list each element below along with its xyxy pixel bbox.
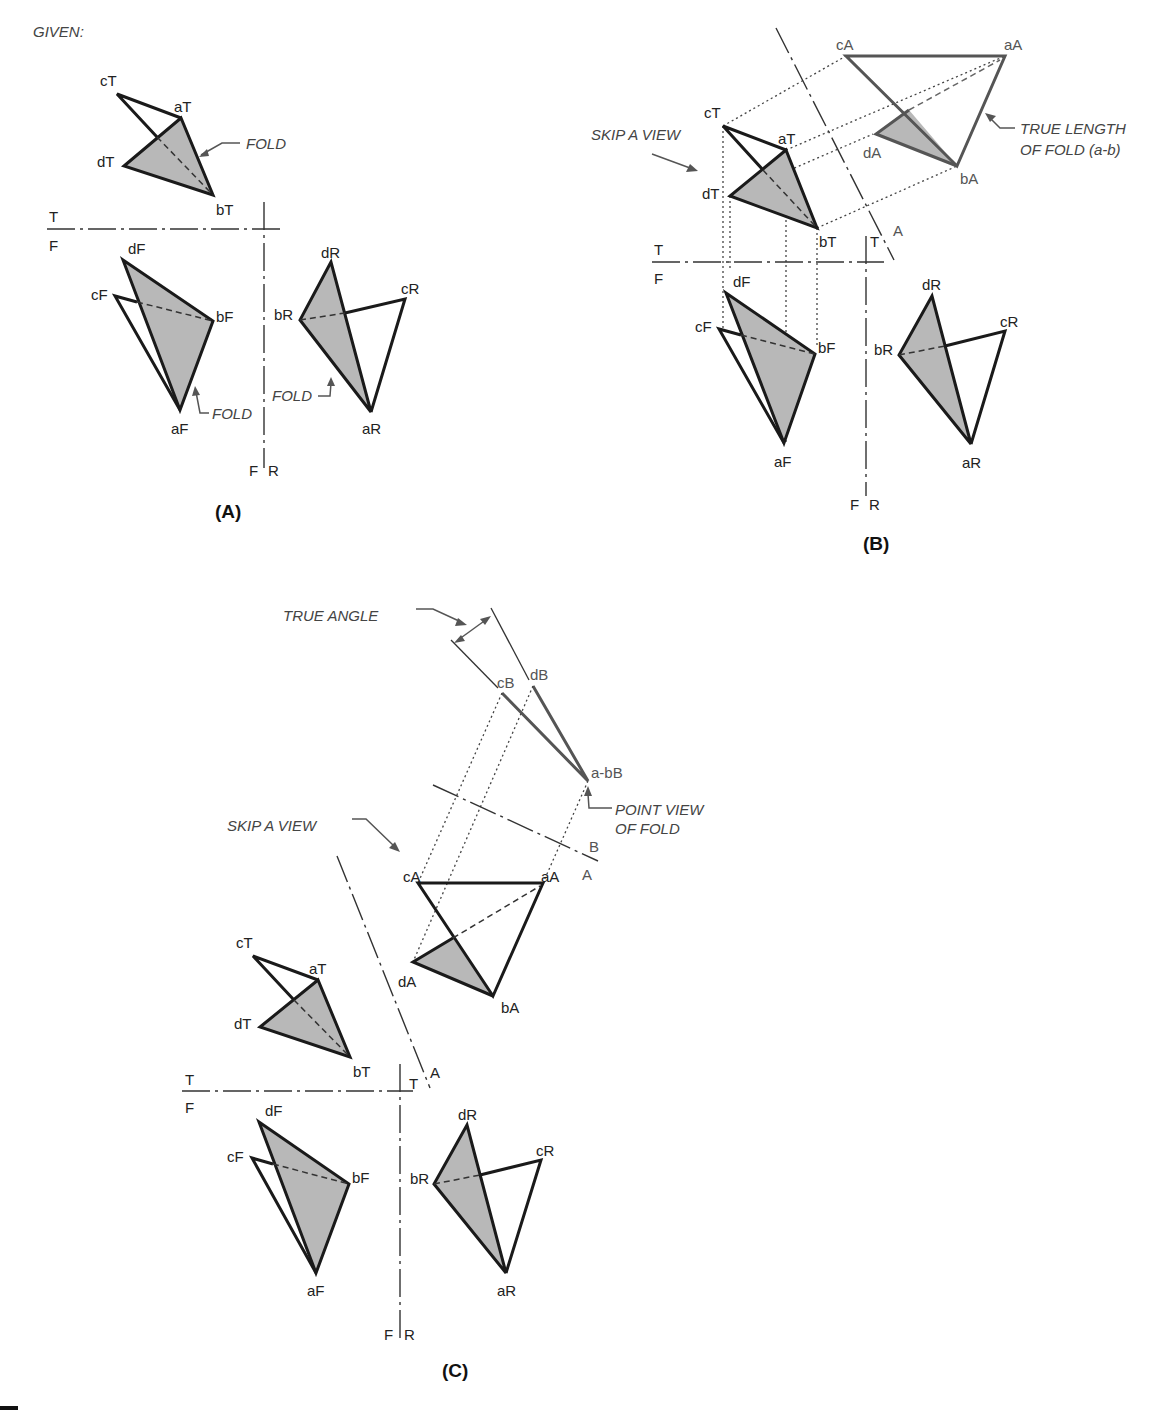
page-mark (0, 1406, 18, 1410)
fold-label-F: F (49, 237, 58, 254)
front-view-b: dF cF bF aF (695, 273, 836, 470)
aux-view-a-b: cA aA dA bA TRUE LENGTH OF FOLD (a-b) (836, 36, 1126, 187)
label-dT-b: dT (702, 185, 720, 202)
label-bF: bF (216, 308, 234, 325)
label-dA-c: dA (398, 973, 416, 990)
panel-b: A T cT aT dT bT SKIP A VIEW cA aA dA bA (591, 28, 1126, 554)
label-bF-b: bF (818, 339, 836, 356)
label-cF-b: cF (695, 318, 712, 335)
label-cF-c: cF (227, 1148, 244, 1165)
fold-label-T-b: T (654, 241, 663, 258)
fold-label-A-c: A (582, 866, 592, 883)
fold-label-T: T (49, 208, 58, 225)
label-bR-b: bR (874, 341, 893, 358)
fold-note-front: FOLD (212, 405, 252, 422)
fold-label-F2: F (249, 462, 258, 479)
label-dF: dF (128, 240, 146, 257)
projection-lines-c (413, 686, 588, 962)
fold-label-F2-c: F (384, 1326, 393, 1343)
point-view-leader (588, 794, 612, 808)
label-bT: bT (216, 201, 234, 218)
front-view-a: dF cF bF aF FOLD (91, 240, 252, 437)
top-view-b: cT aT dT bT (702, 104, 837, 250)
arrow-icon (192, 386, 200, 396)
dihedral-angle-diagram: GIVEN: cT aT dT bT FOLD T F F R dF (0, 0, 1176, 1410)
label-cA-b: cA (836, 36, 854, 53)
label-aT-c: aT (309, 960, 327, 977)
panel-c: TRUE ANGLE cB dB a-bB POINT VIEW OF FOLD… (182, 607, 705, 1381)
label-dT-c: dT (234, 1015, 252, 1032)
label-cF: cF (91, 286, 108, 303)
label-cR-b: cR (1000, 313, 1019, 330)
label-aF: aF (171, 420, 189, 437)
label-cR-c: cR (536, 1142, 555, 1159)
fold-label-A2-c: A (430, 1064, 440, 1081)
fold-label-R-c: R (404, 1326, 415, 1343)
label-bR-c: bR (410, 1170, 429, 1187)
label-dR-b: dR (922, 276, 941, 293)
true-length-note-1: TRUE LENGTH (1020, 120, 1126, 137)
label-bR: bR (274, 306, 293, 323)
fold-label-F-c: F (185, 1099, 194, 1116)
arrow-icon (199, 149, 209, 157)
top-view-c: cT aT dT bT (234, 934, 371, 1080)
label-cT-c: cT (236, 934, 253, 951)
caption-b: (B) (863, 533, 889, 554)
caption-c: (C) (442, 1360, 468, 1381)
fold-label-R-b: R (869, 496, 880, 513)
skip-view-note-c: SKIP A VIEW (227, 817, 318, 834)
label-aR: aR (362, 420, 381, 437)
true-angle-leader (416, 609, 459, 621)
label-bT-b: bT (819, 233, 837, 250)
fold-label-F2-b: F (850, 496, 859, 513)
fold-label-F-b: F (654, 270, 663, 287)
label-abB: a-bB (591, 764, 623, 781)
caption-a: (A) (215, 501, 241, 522)
arrow-icon (686, 164, 698, 172)
fold-note-right: FOLD (272, 387, 312, 404)
arrow-icon (584, 786, 592, 796)
fold-line-ab (433, 785, 598, 861)
label-bA-b: bA (960, 170, 978, 187)
arrow-icon (327, 377, 335, 386)
label-aF-c: aF (307, 1282, 325, 1299)
fold-label-T-c: T (185, 1071, 194, 1088)
top-view-a: cT aT dT bT FOLD (97, 72, 286, 218)
label-aA-b: aA (1004, 36, 1022, 53)
skip-view-leader-b (652, 154, 690, 168)
label-bF-c: bF (352, 1169, 370, 1186)
label-aA-c: aA (541, 868, 559, 885)
fold-line-ta-c (337, 856, 430, 1088)
label-cR: cR (401, 280, 420, 297)
label-bA-c: bA (501, 999, 519, 1016)
label-dB: dB (530, 666, 548, 683)
front-view-c: dF cF bF aF (227, 1102, 370, 1299)
label-aT-b: aT (778, 130, 796, 147)
label-dR-c: dR (458, 1106, 477, 1123)
label-aF-b: aF (774, 453, 792, 470)
fold-label-T3-c: T (409, 1075, 418, 1092)
aux-view-a-c: cA aA dA bA (398, 868, 559, 1016)
aux-view-b: cB dB a-bB POINT VIEW OF FOLD (497, 666, 705, 837)
point-view-note-2: OF FOLD (615, 820, 680, 837)
label-aT: aT (174, 98, 192, 115)
label-cT-b: cT (704, 104, 721, 121)
point-view-note-1: POINT VIEW (615, 801, 705, 818)
skip-view-note-b: SKIP A VIEW (591, 126, 682, 143)
label-cB: cB (497, 674, 515, 691)
label-bT-c: bT (353, 1063, 371, 1080)
label-dA-b: dA (863, 144, 881, 161)
panel-a: GIVEN: cT aT dT bT FOLD T F F R dF (33, 23, 420, 522)
fold-label-R: R (268, 462, 279, 479)
label-dR: dR (321, 244, 340, 261)
true-length-note-2: OF FOLD (a-b) (1020, 141, 1121, 158)
skip-view-leader-c (352, 819, 393, 845)
right-view-c: dR cR bR aR (410, 1106, 555, 1299)
label-aR-c: aR (497, 1282, 516, 1299)
label-aR-b: aR (962, 454, 981, 471)
label-dT: dT (97, 153, 115, 170)
true-angle-note: TRUE ANGLE (283, 607, 379, 624)
arrow-icon (985, 113, 996, 122)
fold-label-A: A (893, 222, 903, 239)
fold-note-top: FOLD (246, 135, 286, 152)
